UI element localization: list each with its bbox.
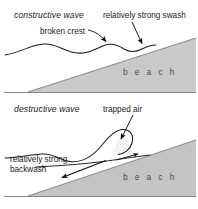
swash-leader xyxy=(132,22,142,44)
label-constructive-wave: constructive wave xyxy=(14,11,84,21)
trapped-air-leader xyxy=(121,115,133,139)
label-relatively-strong-swash: relatively strong swash xyxy=(103,11,186,21)
label-beach-lower: b e a c h xyxy=(123,173,177,183)
label-beach-upper: b e a c h xyxy=(123,68,177,78)
label-broken-crest: broken crest xyxy=(40,27,85,37)
broken-crest-leader xyxy=(88,30,106,42)
label-destructive-wave: destructive wave xyxy=(14,105,80,115)
wave-diagram-figure: constructive wave broken crest relativel… xyxy=(0,0,198,209)
wave-profile-constructive xyxy=(5,44,156,55)
label-relatively-strong-backwash: relatively strong backwash xyxy=(10,155,67,176)
panel-constructive xyxy=(4,22,196,93)
label-trapped-air: trapped air xyxy=(103,105,142,115)
